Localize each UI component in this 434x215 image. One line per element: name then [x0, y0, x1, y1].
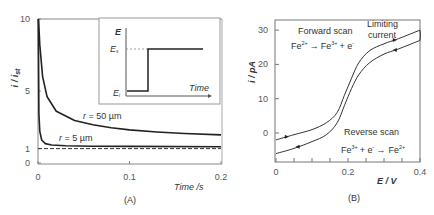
panel-a-y-axis-label: i / ist: [10, 68, 21, 87]
panel-a-label-r5: r = 5 µm: [59, 133, 92, 143]
figure: 10510 00.10.2 i / ist Time /s r = 50 µm …: [0, 0, 434, 215]
panel-a-caption: (A): [124, 195, 136, 205]
panel-b: 3020100 00.20.4 i / pA E / V (B) Forward…: [247, 19, 426, 203]
forward-scan-equation: Fe2+→Fe3++ e-: [291, 40, 354, 51]
inset-e-label: E: [115, 27, 122, 37]
x-tick-label: 0.2: [342, 167, 355, 177]
reverse-scan-equation: Fe3++ e-→Fe2+: [341, 144, 405, 155]
y-tick-label: 20: [258, 59, 268, 69]
inset-potential-step: E Es Ei Time: [99, 18, 220, 104]
y-tick-label: 0: [25, 158, 30, 168]
x-tick-label: 0: [273, 167, 278, 177]
x-tick-label: 0.4: [414, 167, 427, 177]
panel-b-x-ticks: 00.20.4: [273, 158, 426, 177]
y-tick-label: 0: [263, 128, 268, 138]
panel-b-y-axis-label: i / pA: [247, 61, 257, 83]
y-tick-label: 1: [25, 144, 30, 154]
inset-time-label: Time: [189, 83, 209, 93]
y-tick-label: 30: [258, 25, 268, 35]
scan-direction-arrow-icon: [393, 48, 397, 52]
x-tick-label: 0: [35, 172, 40, 182]
panel-a-label-r50: r = 50 µm: [83, 111, 121, 121]
limiting-current-label-1: Limiting: [367, 19, 398, 29]
panel-b-caption: (B): [348, 193, 360, 203]
x-tick-label: 0.2: [215, 172, 228, 182]
limiting-current-label-2: current: [368, 30, 397, 40]
panel-a-x-axis-label: Time /s: [174, 182, 204, 192]
reverse-scan-title: Reverse scan: [344, 127, 399, 137]
forward-scan-title: Forward scan: [298, 26, 353, 36]
y-tick-label: 5: [25, 86, 30, 96]
scan-direction-arrow-icon: [285, 135, 289, 139]
x-tick-label: 0.1: [123, 172, 136, 182]
panel-a: 10510 00.10.2 i / ist Time /s r = 50 µm …: [10, 14, 227, 205]
panel-b-y-ticks: 3020100: [258, 25, 279, 138]
panel-b-x-axis-label: E / V: [377, 176, 398, 186]
y-tick-label: 10: [258, 94, 268, 104]
y-tick-label: 10: [20, 14, 30, 24]
